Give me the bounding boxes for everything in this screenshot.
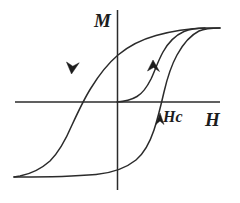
hysteresis-figure: M H Hc [0,0,240,203]
descending-direction-arrow-icon [67,62,80,74]
initial-magnetization-curve [117,28,205,102]
h-axis-label: H [205,110,220,129]
hysteresis-plot-canvas [0,0,240,203]
coercivity-label: Hc [163,109,183,125]
m-axis-label: M [94,11,111,30]
